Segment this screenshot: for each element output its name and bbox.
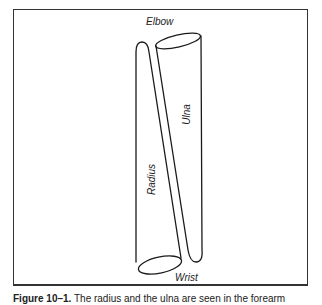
wrist-label: Wrist — [175, 272, 198, 283]
radius-label: Radius — [146, 164, 157, 195]
figure-number: Figure 10–1. — [13, 293, 71, 304]
figure-caption: Figure 10–1. The radius and the ulna are… — [13, 293, 313, 305]
radius-bone — [136, 42, 183, 277]
caption-text: The radius and the ulna are seen in the … — [71, 293, 285, 304]
ulna-label: Ulna — [181, 104, 192, 125]
elbow-label: Elbow — [146, 16, 173, 27]
ulna-bone — [154, 30, 202, 262]
